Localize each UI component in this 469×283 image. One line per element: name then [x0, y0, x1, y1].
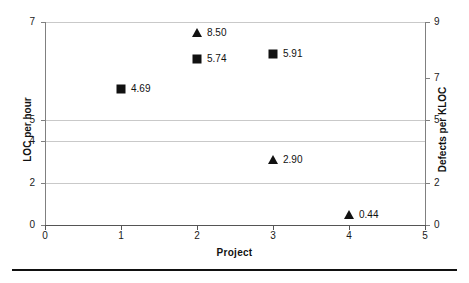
y-axis-right-tick-label: 0	[434, 220, 440, 230]
x-axis-title: Project	[0, 247, 469, 258]
x-axis-line	[45, 225, 426, 226]
triangle-marker-icon	[344, 210, 354, 219]
y-axis-right-line	[425, 22, 426, 226]
y-axis-left-tick	[41, 141, 45, 142]
y-axis-left-title: LOC per hour	[22, 70, 33, 190]
data-point-label: 2.90	[283, 155, 302, 165]
square-marker-icon	[193, 54, 202, 63]
chart-figure: 02457 02579 012345 4.695.745.918.502.900…	[0, 0, 469, 283]
data-point-label: 8.50	[207, 28, 226, 38]
triangle-marker-icon	[268, 155, 278, 164]
y-axis-left-line	[45, 22, 46, 226]
gridline	[46, 141, 425, 142]
y-axis-left-tick-label: 7	[29, 17, 35, 27]
y-axis-right-tick-label: 9	[434, 17, 440, 27]
y-axis-left-tick	[41, 120, 45, 121]
data-point-label: 4.69	[131, 84, 150, 94]
square-marker-icon	[117, 84, 126, 93]
y-axis-left-tick	[41, 183, 45, 184]
y-axis-right-tick	[426, 120, 430, 121]
y-axis-right-tick	[426, 183, 430, 184]
gridline	[46, 120, 425, 121]
x-axis-tick-label: 4	[346, 231, 352, 241]
data-point-label: 5.91	[283, 49, 302, 59]
x-axis-tick-label: 5	[422, 231, 428, 241]
y-axis-right-title: Defects per KLOC	[437, 70, 448, 190]
y-axis-right-tick	[426, 78, 430, 79]
triangle-marker-icon	[192, 28, 202, 37]
y-axis-left-tick	[41, 22, 45, 23]
x-axis-tick-label: 0	[42, 231, 48, 241]
x-axis-tick-label: 3	[270, 231, 276, 241]
y-axis-left-tick-label: 0	[29, 220, 35, 230]
square-marker-icon	[269, 49, 278, 58]
gridline	[46, 22, 425, 23]
data-point-label: 5.74	[207, 54, 226, 64]
x-axis-tick-label: 2	[194, 231, 200, 241]
plot-area	[45, 22, 425, 225]
figure-bottom-rule	[12, 269, 457, 271]
y-axis-right-tick	[426, 225, 430, 226]
data-point-label: 0.44	[359, 210, 378, 220]
x-axis-tick-label: 1	[118, 231, 124, 241]
gridline	[46, 183, 425, 184]
y-axis-right-tick	[426, 22, 430, 23]
